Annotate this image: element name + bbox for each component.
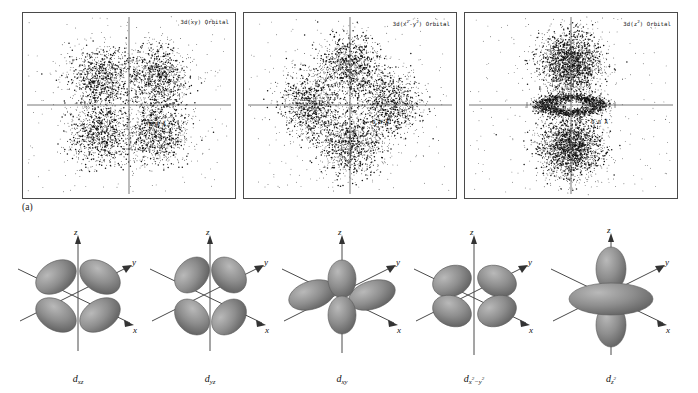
axis-label-z-dxz: z [73,227,78,237]
orbital-label-dxy: dxy [276,373,408,384]
scatter-plot-3d-z2: 3d(z2) Orbital 0.8 Å [464,12,678,199]
scale-label-x2y2: 0.8 Å [372,119,389,125]
axis-label-x-dxy: x [396,325,401,335]
panel-letter-a: (a) [22,202,33,212]
orbital-figure-dx2-y2: z y x dx2−y2 [408,223,540,388]
scale-label-z2: 0.8 Å [591,119,608,125]
axis-label-z-dx2y2: z [469,227,474,237]
figure-root: 3d(xy) Orbital 0.8 Å 3d(x2-y2) Orbital 0… [0,0,698,393]
orbital-figure-dxz: z y x dxz [12,223,144,388]
orbital-figure-dyz: z y x dyz [144,223,276,388]
orbital-label-dxz: dxz [12,373,144,384]
orbital-svg-dyz: z y x [144,223,276,363]
caption-text-x2y2: 3d(x [393,21,407,27]
orbital-caption-z2: 3d(z2) Orbital [623,19,671,27]
axis-label-y-dyz: y [263,257,268,267]
scatter-svg-x2y2 [244,13,456,198]
orbital-svg-dxz: z y x [12,223,144,363]
orbital-caption-xy: 3d(xy) Orbital [180,19,229,25]
axis-label-x-dz2: x [665,325,670,335]
axis-label-x-dyz: x [264,325,269,335]
axis-label-y-dxz: y [131,257,136,267]
caption-text-z2: 3d(z [623,21,637,27]
orbital-figure-dxy: z y x dxy [276,223,408,388]
axis-label-z-dz2: z [606,225,611,235]
axis-label-y-dxy: y [395,257,400,267]
scatter-plot-3d-xy: 3d(xy) Orbital 0.8 Å [22,12,236,199]
scatter-svg-xy [23,13,235,198]
axis-label-z-dyz: z [205,227,210,237]
orbital-svg-dxy: z y x [276,223,408,363]
orbital-svg-dz2: z y x [545,223,677,363]
axis-label-z-dxy: z [337,227,342,237]
axis-label-y-dz2: y [664,257,669,267]
orbital-caption-x2y2: 3d(x2-y2) Orbital [393,19,450,27]
orbital-label-dx2-y2: dx2−y2 [408,373,540,384]
orbital-label-dz2: dz2 [545,373,677,384]
axis-label-x-dx2y2: x [528,325,533,335]
scale-label-xy: 0.8 Å [149,121,166,127]
orbital-label-dyz: dyz [144,373,276,384]
axis-label-y-dx2y2: y [527,257,532,267]
scatter-svg-z2 [465,13,677,198]
orbital-figure-dz2: z y x dz2 [545,223,677,388]
scatter-plot-3d-x2-y2: 3d(x2-y2) Orbital 0.8 Å [243,12,457,199]
panel-b-orbital-shapes: z y x dxz [0,215,698,393]
panel-a-scatter-plots: 3d(xy) Orbital 0.8 Å 3d(x2-y2) Orbital 0… [0,0,698,215]
orbital-svg-dx2y2: z y x [408,223,540,363]
axis-label-x-dxz: x [132,325,137,335]
